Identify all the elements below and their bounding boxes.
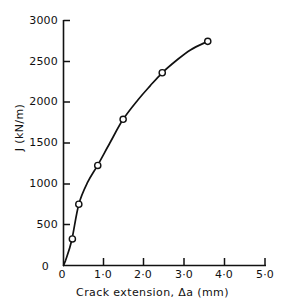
x-tick-label: 4·0 <box>204 269 244 280</box>
data-point <box>69 236 75 242</box>
data-point-group <box>69 38 211 242</box>
x-axis-label: Crack extension, Δa (mm) <box>0 286 283 299</box>
chart-figure: J (kN/m) 3000 2500 2000 1500 1000 500 0 <box>0 0 283 307</box>
x-tick-label: 0 <box>42 269 82 280</box>
x-tick-label: 3·0 <box>164 269 204 280</box>
x-tick-label-group: 0 1·0 2·0 3·0 4·0 5·0 <box>0 269 283 285</box>
y-tick-marks <box>64 21 71 225</box>
y-tick-label: 2000 <box>18 96 58 107</box>
x-tick-label: 2·0 <box>123 269 163 280</box>
data-point <box>95 162 101 168</box>
y-tick-label: 1500 <box>18 137 58 148</box>
data-point <box>120 116 126 122</box>
y-tick-label: 1000 <box>18 178 58 189</box>
x-tick-label: 1·0 <box>83 269 123 280</box>
y-tick-label: 2500 <box>18 56 58 67</box>
y-tick-label: 3000 <box>18 15 58 26</box>
y-tick-label: 500 <box>18 219 58 230</box>
data-curve <box>64 41 208 265</box>
data-point <box>76 201 82 207</box>
x-tick-marks <box>104 258 266 266</box>
y-tick-label-group: 3000 2500 2000 1500 1000 500 0 <box>14 0 58 307</box>
data-point <box>205 38 211 44</box>
x-tick-label: 5·0 <box>245 269 283 280</box>
data-point <box>159 70 165 76</box>
